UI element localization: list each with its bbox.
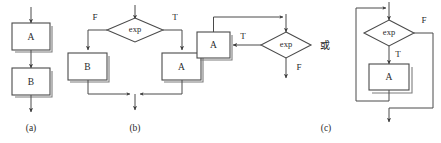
panel-b-caption: (b) xyxy=(129,123,140,134)
panel-b-false-edge xyxy=(88,30,107,50)
panel-a: A B (a) xyxy=(12,7,52,134)
panel-c-left-label-false: F xyxy=(296,62,301,72)
panel-c-right-label-true: T xyxy=(395,49,401,59)
panel-c-variant-left: exp T A F xyxy=(197,14,311,78)
panel-b-box-a-label: A xyxy=(178,62,185,72)
panel-c-right-box-a-label: A xyxy=(386,72,393,82)
panel-a-box-b-label: B xyxy=(28,77,34,87)
panel-c-right-label-false: F xyxy=(421,15,426,25)
panel-b-true-edge xyxy=(163,30,182,50)
panel-b-label-true: T xyxy=(172,12,178,22)
flowchart-svg: A B (a) exp F T xyxy=(0,0,441,143)
variant-connector-text: 或 xyxy=(320,40,330,51)
panel-c-left-decision-exp-label: exp xyxy=(280,39,292,49)
panel-b-box-b-label: B xyxy=(84,62,90,72)
panel-c-caption: (c) xyxy=(321,123,332,134)
panel-c-left-box-a-label: A xyxy=(210,40,217,50)
panel-c-left-loopback-edge xyxy=(214,17,284,32)
panel-a-box-a-label: A xyxy=(28,32,35,42)
panel-c-variant-right: exp F T A (c) xyxy=(321,2,433,134)
panel-b: exp F T B A (b) xyxy=(68,5,203,134)
panel-c-right-decision-exp-label: exp xyxy=(383,27,395,37)
figure-canvas: A B (a) exp F T xyxy=(0,0,441,143)
panel-b-label-false: F xyxy=(92,12,97,22)
panel-c-left-label-true: T xyxy=(240,31,246,41)
panel-b-decision-exp-label: exp xyxy=(129,24,141,34)
panel-a-caption: (a) xyxy=(26,123,37,134)
